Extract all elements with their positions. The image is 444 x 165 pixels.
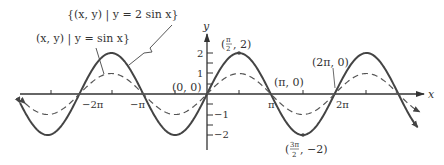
x-tick-label-negpi: −π	[130, 99, 145, 110]
y-tick-label-2: 2	[197, 48, 203, 59]
svg-text:, 2): , 2)	[233, 38, 251, 51]
y-tick-label-1: 1	[197, 68, 203, 79]
svg-text:, −2): , −2)	[300, 143, 328, 156]
y-tick-label-neg2: −2	[214, 129, 229, 140]
svg-text:2: 2	[226, 45, 230, 53]
svg-text:(: (	[285, 143, 289, 156]
y-tick-label-neg1: −1	[214, 109, 229, 120]
svg-text:2: 2	[292, 151, 296, 159]
svg-text:π: π	[226, 36, 231, 44]
legend-sin-label: (x, y) | y = sin x}	[36, 32, 130, 46]
min-point-dot	[301, 133, 305, 137]
y-axis-label: y	[202, 20, 210, 33]
legend-2sin-label: {(x, y) | y = 2 sin x}	[67, 8, 179, 22]
point-label-origin: (0, 0)	[172, 81, 202, 94]
x-tick-label-neg2pi: −2π	[82, 99, 104, 110]
leader-line-2sin	[129, 25, 172, 65]
point-label-min: ( 3π 2 , −2)	[285, 141, 328, 159]
leader-line-2pi	[333, 68, 335, 88]
point-label-2pi: (2π, 0)	[312, 56, 349, 69]
x-tick-label-2pi: 2π	[336, 99, 349, 110]
x-axis-label: x	[428, 88, 435, 101]
point-label-pi: (π, 0)	[274, 76, 304, 89]
svg-text:3π: 3π	[290, 141, 299, 149]
point-label-max: ( π 2 , 2)	[221, 36, 251, 53]
svg-text:(: (	[221, 38, 225, 51]
sine-graph: x y −2π −π π 2π 2 1 −1 −2 (0, 0) (π, 0) …	[0, 0, 444, 165]
max-point-dot	[237, 51, 241, 55]
x-tick-label-pi: π	[268, 99, 275, 110]
